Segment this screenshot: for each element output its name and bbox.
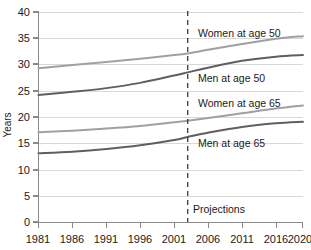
x-tick-label-2001: 2001 [162, 233, 186, 245]
y-tick-label-40: 40 [18, 6, 30, 18]
series-label-women-at-age-50: Women at age 50 [198, 27, 281, 39]
y-tick-label-25: 25 [18, 85, 30, 97]
x-tick-label-2020: 2020 [288, 233, 311, 245]
y-tick-label-15: 15 [18, 137, 30, 149]
y-tick-label-30: 30 [18, 58, 30, 70]
x-tick-label-2016: 2016 [264, 233, 288, 245]
projections-label: Projections [193, 203, 245, 215]
y-tick-label-5: 5 [24, 190, 30, 202]
y-axis-title: Years [2, 112, 13, 137]
x-tick-label-2006: 2006 [196, 233, 220, 245]
life-expectancy-line-chart: 40 35 30 25 20 15 10 5 0 Years 1981 1986… [0, 0, 311, 250]
chart-canvas: 40 35 30 25 20 15 10 5 0 Years 1981 1986… [0, 0, 311, 250]
x-tick-label-1981: 1981 [26, 233, 50, 245]
y-tick-label-10: 10 [18, 164, 30, 176]
x-tick-label-1996: 1996 [128, 233, 152, 245]
series-line-women-at-age-65 [39, 105, 304, 132]
y-axis: 40 35 30 25 20 15 10 5 0 Years [2, 6, 39, 228]
series-lines [39, 36, 304, 153]
x-axis: 1981 1986 1991 1996 2001 2006 2011 2016 … [26, 222, 311, 245]
series-label-women-at-age-65: Women at age 65 [198, 97, 281, 109]
x-tick-label-1991: 1991 [94, 233, 118, 245]
y-tick-label-0: 0 [24, 216, 30, 228]
y-tick-label-20: 20 [18, 111, 30, 123]
series-line-women-at-age-50 [39, 36, 304, 68]
series-label-men-at-age-65: Men at age 65 [198, 137, 265, 149]
y-tick-label-35: 35 [18, 32, 30, 44]
x-tick-label-2011: 2011 [230, 233, 254, 245]
series-label-men-at-age-50: Men at age 50 [198, 72, 265, 84]
x-tick-label-1986: 1986 [60, 233, 84, 245]
